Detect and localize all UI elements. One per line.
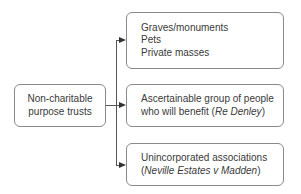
branch-node-graves-pets-masses: Graves/monuments Pets Private masses xyxy=(126,12,284,69)
branch-2-line-2: who will benefit (Re Denley) xyxy=(141,106,283,119)
branch-node-unincorporated-associations: Unincorporated associations (Neville Est… xyxy=(126,143,284,186)
branch-1-item-graves: Graves/monuments xyxy=(141,22,283,35)
branch-1-item-pets: Pets xyxy=(141,34,283,47)
arrow-icon-branch-1 xyxy=(119,37,126,43)
branch-2-suffix: ) xyxy=(262,106,265,117)
root-label-line-2: purpose trusts xyxy=(27,106,92,119)
connector-horizontal-root xyxy=(106,105,116,106)
arrow-icon-branch-2 xyxy=(119,102,126,108)
root-node-non-charitable-purpose-trusts: Non-charitable purpose trusts xyxy=(14,84,106,127)
root-label-line-1: Non-charitable xyxy=(27,93,92,106)
branch-3-line-2: (Neville Estates v Madden) xyxy=(141,165,283,178)
branch-1-item-private-masses: Private masses xyxy=(141,47,283,60)
branch-3-suffix: ) xyxy=(257,165,260,176)
branch-2-line-1: Ascertainable group of people xyxy=(141,93,283,106)
connector-vertical-trunk xyxy=(116,40,117,165)
branch-3-line-1: Unincorporated associations xyxy=(141,152,283,165)
branch-2-prefix: who will benefit ( xyxy=(141,106,215,117)
case-name-neville-estates: Neville Estates v Madden xyxy=(144,165,257,176)
arrow-icon-branch-3 xyxy=(119,162,126,168)
case-name-re-denley: Re Denley xyxy=(215,106,262,117)
branch-node-ascertainable-group: Ascertainable group of people who will b… xyxy=(126,84,284,127)
